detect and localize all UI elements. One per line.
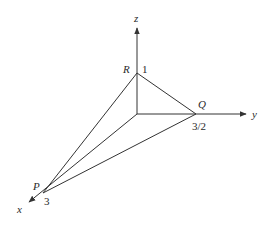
point-Q-label: Q xyxy=(198,98,206,110)
edge-RQ xyxy=(137,73,196,114)
x-axis-label: x xyxy=(16,203,22,215)
tetrahedron-diagram: z y x R 1 Q 3/2 P 3 xyxy=(0,0,275,226)
point-P-value: 3 xyxy=(44,195,50,207)
point-R-value: 1 xyxy=(142,63,148,75)
x-axis xyxy=(29,114,137,202)
point-Q-value: 3/2 xyxy=(192,120,206,132)
point-R-label: R xyxy=(122,63,130,75)
z-axis-label: z xyxy=(133,12,139,24)
point-P-label: P xyxy=(32,180,40,192)
edge-PR xyxy=(43,73,137,193)
edge-PQ xyxy=(43,114,196,193)
y-axis-label: y xyxy=(251,108,257,120)
